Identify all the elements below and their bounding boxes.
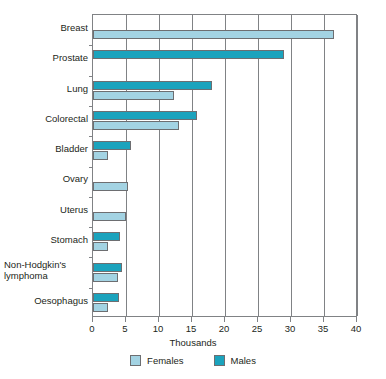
category-label-non-hodgkin-s-lymphoma: Non-Hodgkin's lymphoma <box>0 260 88 281</box>
bar-females-uterus <box>93 212 126 221</box>
gridline <box>357 15 358 316</box>
x-axis-tick <box>158 317 159 322</box>
legend-swatch-females <box>130 355 141 366</box>
category-label-bladder: Bladder <box>0 144 88 155</box>
category-label-oesophagus: Oesophagus <box>0 296 88 307</box>
x-axis-tick <box>257 317 258 322</box>
plot-area <box>92 14 357 317</box>
category-tick <box>89 227 93 228</box>
x-axis-tick <box>290 317 291 322</box>
x-axis-tick <box>92 317 93 322</box>
x-axis-tick-label: 5 <box>112 323 138 334</box>
bar-females-non-hodgkin-s-lymphoma <box>93 273 118 282</box>
category-label-uterus: Uterus <box>0 205 88 216</box>
x-axis-tick-label: 0 <box>79 323 105 334</box>
gridline <box>126 15 127 316</box>
legend-label-females: Females <box>147 355 183 366</box>
bar-chart: BreastProstateLungColorectalBladderOvary… <box>0 0 386 379</box>
x-axis-tick <box>224 317 225 322</box>
category-tick <box>89 45 93 46</box>
category-tick <box>89 257 93 258</box>
bar-males-bladder <box>93 141 131 150</box>
bar-females-ovary <box>93 182 128 191</box>
category-tick <box>89 288 93 289</box>
bar-females-breast <box>93 30 334 39</box>
x-axis-tick-label: 40 <box>343 323 369 334</box>
bar-males-stomach <box>93 232 120 241</box>
category-tick <box>89 167 93 168</box>
bar-males-non-hodgkin-s-lymphoma <box>93 263 122 272</box>
legend-item-males[interactable]: Males <box>214 355 256 366</box>
bar-males-prostate <box>93 50 284 59</box>
category-label-ovary: Ovary <box>0 174 88 185</box>
bar-males-colorectal <box>93 111 197 120</box>
x-axis-tick-label: 35 <box>310 323 336 334</box>
bar-females-colorectal <box>93 121 179 130</box>
x-axis-tick <box>191 317 192 322</box>
gridline <box>258 15 259 316</box>
bar-females-oesophagus <box>93 303 108 312</box>
gridline <box>225 15 226 316</box>
legend-label-males: Males <box>231 355 256 366</box>
gridline <box>192 15 193 316</box>
x-axis-tick <box>125 317 126 322</box>
chart-legend: FemalesMales <box>0 355 386 366</box>
x-axis-tick-label: 30 <box>277 323 303 334</box>
category-tick <box>89 106 93 107</box>
bar-females-lung <box>93 91 174 100</box>
category-label-prostate: Prostate <box>0 53 88 64</box>
x-axis-tick <box>323 317 324 322</box>
bar-females-bladder <box>93 151 108 160</box>
gridline <box>159 15 160 316</box>
legend-swatch-males <box>214 355 225 366</box>
gridline <box>324 15 325 316</box>
x-axis-title: Thousands <box>0 337 386 348</box>
x-axis-tick-label: 10 <box>145 323 171 334</box>
bar-males-lung <box>93 81 212 90</box>
category-tick <box>89 76 93 77</box>
x-axis-tick-label: 20 <box>211 323 237 334</box>
x-axis-tick-label: 15 <box>178 323 204 334</box>
category-label-breast: Breast <box>0 23 88 34</box>
category-label-lung: Lung <box>0 84 88 95</box>
category-axis-labels: BreastProstateLungColorectalBladderOvary… <box>0 14 88 317</box>
bar-males-oesophagus <box>93 293 119 302</box>
category-tick <box>89 136 93 137</box>
category-label-colorectal: Colorectal <box>0 114 88 125</box>
gridline <box>291 15 292 316</box>
x-axis-tick <box>356 317 357 322</box>
category-label-stomach: Stomach <box>0 235 88 246</box>
legend-item-females[interactable]: Females <box>130 355 183 366</box>
x-axis-tick-label: 25 <box>244 323 270 334</box>
category-tick <box>89 197 93 198</box>
bar-females-stomach <box>93 242 108 251</box>
